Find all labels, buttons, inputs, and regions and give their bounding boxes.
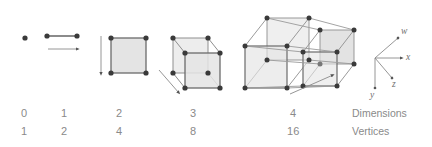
row-label-dimensions: Dimensions <box>352 107 407 119</box>
axis-w-line <box>375 38 398 58</box>
vertex-dot <box>243 86 248 91</box>
vertex-dot <box>22 35 27 40</box>
vertex-dot <box>143 35 148 40</box>
row-label-vertices: Vertices <box>352 125 389 137</box>
cube-depth-edge <box>173 73 185 88</box>
vertex-dot <box>205 70 210 75</box>
dimensions-value-0: 0 <box>21 107 27 119</box>
dimensions-value-3: 3 <box>190 107 196 119</box>
vertices-value-1: 2 <box>61 125 67 137</box>
vertex-dot <box>74 33 79 38</box>
shape-cube <box>159 35 223 93</box>
axis-label-x: x <box>406 52 410 62</box>
vertex-dot <box>307 16 312 21</box>
vertex-dot <box>285 86 290 91</box>
vertex-dot <box>335 84 340 89</box>
vertices-value-2: 4 <box>116 125 122 137</box>
vertex-dot <box>143 70 148 75</box>
vertex-dot <box>108 35 113 40</box>
cube-depth-edge <box>208 38 220 53</box>
vertex-dot <box>108 70 113 75</box>
dimensional-analogy-figure: w x z y 0 1 2 3 4 1 2 4 8 16 Dimensions … <box>0 0 432 147</box>
square-face <box>111 38 146 73</box>
axis-key <box>375 38 402 88</box>
vertex-dot <box>44 33 49 38</box>
axis-label-z: z <box>392 79 396 89</box>
vertices-value-4: 16 <box>287 125 300 137</box>
vertices-value-0: 1 <box>21 125 27 137</box>
tesseract-inner-edge <box>337 64 354 86</box>
vertex-dot <box>217 85 222 90</box>
vertex-dot <box>170 70 175 75</box>
vertex-dot <box>265 58 270 63</box>
tesseract-outer-edge <box>245 18 267 46</box>
axis-label-w: w <box>401 26 407 36</box>
shape-tesseract <box>243 16 357 95</box>
dimensions-value-1: 1 <box>61 107 67 119</box>
vertex-dot <box>318 62 323 67</box>
vertices-value-3: 8 <box>190 125 196 137</box>
vertex-dot <box>265 16 270 21</box>
vertex-dot <box>243 44 248 49</box>
dimensions-value-4: 4 <box>290 107 296 119</box>
vertex-dot <box>205 35 210 40</box>
vertex-dot <box>318 28 323 33</box>
vertex-dot <box>285 44 290 49</box>
vertex-dot <box>182 50 187 55</box>
axis-z-line <box>375 58 392 78</box>
tesseract-outer-front-face <box>245 46 287 88</box>
tesseract-4d-edge <box>309 18 354 30</box>
vertex-dot <box>301 50 306 55</box>
vertex-dot <box>352 28 357 33</box>
vertex-dot <box>335 50 340 55</box>
vertex-dot <box>170 35 175 40</box>
vertex-dot <box>307 58 312 63</box>
vertex-dot <box>352 62 357 67</box>
cube-front-face <box>185 53 220 88</box>
shape-point <box>22 35 27 40</box>
shape-square <box>101 35 149 75</box>
vertex-dot <box>217 50 222 55</box>
vertex-dot <box>182 85 187 90</box>
dimensions-value-2: 2 <box>116 107 122 119</box>
axis-label-y: y <box>370 90 374 100</box>
shape-line-segment <box>44 33 79 49</box>
